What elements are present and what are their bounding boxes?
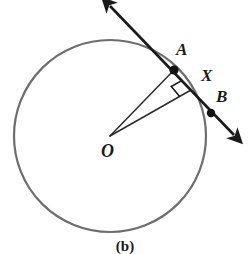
radius-segment-ox [110, 90, 191, 136]
figure-caption: (b) [0, 239, 250, 254]
radius-segment-oa [110, 70, 174, 136]
point-dot-b [207, 109, 215, 117]
point-dot-a [169, 65, 178, 74]
point-label-x: X [201, 67, 212, 84]
right-angle-icon [171, 80, 182, 96]
point-label-o: O [101, 142, 114, 160]
point-label-b: B [216, 88, 227, 105]
point-label-a: A [176, 41, 187, 58]
